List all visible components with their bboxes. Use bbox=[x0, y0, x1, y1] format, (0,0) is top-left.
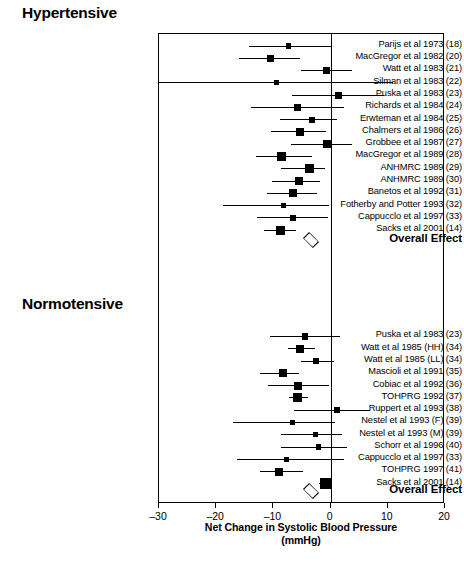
study-effect-marker bbox=[294, 382, 302, 390]
x-axis-title-line2: (mmHg) bbox=[158, 534, 444, 547]
confidence-interval-line bbox=[281, 447, 347, 448]
zero-reference-line bbox=[331, 34, 332, 502]
x-axis-tick bbox=[330, 503, 331, 508]
study-effect-marker bbox=[286, 43, 291, 48]
confidence-interval-line bbox=[281, 168, 324, 169]
overall-effect-diamond bbox=[304, 233, 318, 247]
study-effect-marker bbox=[281, 203, 286, 208]
study-effect-marker bbox=[320, 478, 331, 489]
x-axis-tick bbox=[387, 503, 388, 508]
group-title-normotensive: Normotensive bbox=[22, 295, 123, 313]
study-effect-marker bbox=[295, 177, 303, 185]
study-effect-marker bbox=[284, 457, 289, 462]
study-effect-marker bbox=[275, 468, 283, 476]
study-effect-marker bbox=[305, 164, 314, 173]
study-effect-marker bbox=[323, 140, 331, 148]
study-effect-marker bbox=[335, 92, 342, 99]
confidence-interval-line bbox=[294, 410, 370, 411]
x-axis-title: Net Change in Systolic Blood Pressure (m… bbox=[158, 521, 444, 547]
confidence-interval-line bbox=[223, 205, 329, 206]
x-axis-tick bbox=[444, 503, 445, 508]
study-effect-marker bbox=[296, 345, 304, 353]
study-effect-marker bbox=[293, 393, 302, 402]
study-effect-marker bbox=[313, 358, 319, 364]
study-effect-marker bbox=[316, 444, 321, 449]
confidence-interval-line bbox=[281, 434, 342, 435]
confidence-interval-line bbox=[233, 422, 334, 423]
study-effect-marker bbox=[313, 432, 318, 437]
confidence-interval-line bbox=[291, 144, 352, 145]
study-effect-marker bbox=[279, 369, 287, 377]
plot-area bbox=[158, 33, 444, 503]
overall-effect-diamond bbox=[304, 484, 318, 498]
study-effect-marker bbox=[274, 80, 279, 85]
study-effect-marker bbox=[334, 407, 340, 413]
study-effect-marker bbox=[276, 226, 285, 235]
study-effect-marker bbox=[309, 117, 315, 123]
confidence-interval-line bbox=[237, 459, 344, 460]
x-axis-tick bbox=[158, 503, 159, 508]
study-effect-marker bbox=[302, 333, 308, 339]
group-title-hypertensive: Hypertensive bbox=[22, 4, 117, 22]
study-effect-marker bbox=[290, 420, 295, 425]
study-effect-marker bbox=[323, 67, 330, 74]
x-axis-tick bbox=[215, 503, 216, 508]
study-effect-marker bbox=[296, 128, 304, 136]
x-axis-title-line1: Net Change in Systolic Blood Pressure bbox=[158, 521, 444, 534]
study-effect-marker bbox=[290, 215, 296, 221]
study-effect-marker bbox=[267, 55, 274, 62]
study-effect-marker bbox=[277, 152, 286, 161]
study-effect-marker bbox=[294, 104, 301, 111]
x-axis-tick bbox=[272, 503, 273, 508]
study-effect-marker bbox=[289, 189, 297, 197]
